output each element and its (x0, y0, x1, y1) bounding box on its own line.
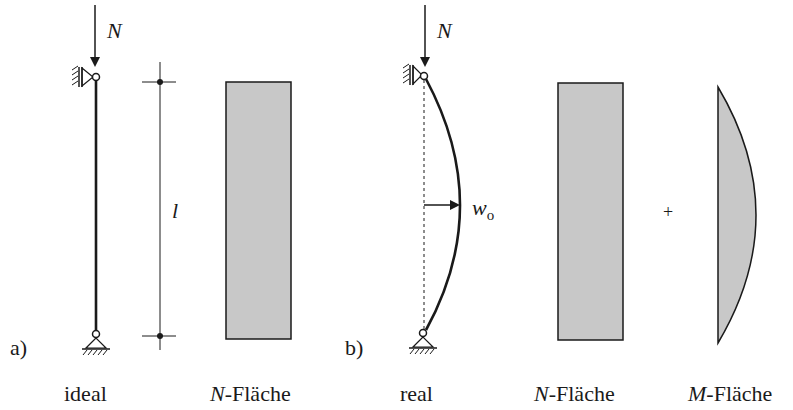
n-symbol: N (210, 381, 225, 406)
w-subscript: o (487, 207, 495, 223)
length-dimension (142, 62, 176, 350)
part-b-marker: b) (345, 337, 363, 359)
ideal-caption: ideal (64, 383, 107, 405)
m-symbol: M (688, 381, 706, 406)
load-label-b: N (437, 20, 452, 42)
length-label: l (172, 200, 178, 222)
normal-force-diagram-b (558, 83, 623, 340)
n-diagram-caption-b: N-Fläche (534, 383, 615, 405)
flaeche-text: -Fläche (549, 381, 615, 406)
flaeche-text: -Fläche (225, 381, 291, 406)
plus-sign: + (663, 203, 673, 221)
n-diagram-caption-a: N-Fläche (210, 383, 291, 405)
moment-diagram (718, 87, 756, 343)
flaeche-text: -Fläche (706, 381, 772, 406)
load-label-a: N (107, 20, 122, 42)
m-diagram-caption: M-Fläche (688, 383, 772, 405)
normal-force-diagram-a (226, 82, 291, 339)
real-column-group (403, 5, 756, 354)
figure-canvas (0, 0, 793, 410)
w-symbol: w (472, 195, 487, 220)
real-caption: real (400, 383, 433, 405)
bottom-support-b-icon (409, 330, 437, 355)
ideal-column-group (72, 5, 291, 355)
n-symbol: N (534, 381, 549, 406)
bottom-support-a-icon (82, 331, 110, 356)
imperfection-label: wo (472, 197, 494, 219)
part-a-marker: a) (10, 337, 27, 359)
